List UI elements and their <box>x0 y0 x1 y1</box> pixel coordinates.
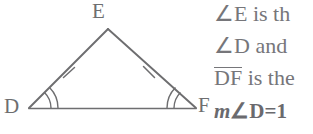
vertex-label-F: F <box>198 95 210 116</box>
side-DE <box>29 29 108 108</box>
problem-text-block: ∠E is th ∠D and DF is the m∠D=1 <box>214 0 313 134</box>
triangle-figure: E D F <box>0 0 210 134</box>
vertex-label-E: E <box>92 1 105 22</box>
angle-arc-F <box>167 88 181 109</box>
geometry-figure-page: E D F ∠E is th ∠D and DF is the m∠D=1 <box>0 0 313 134</box>
text-line-measure-angle-D: m∠D=1 <box>214 100 287 122</box>
side-EF <box>108 29 196 108</box>
vertex-label-D: D <box>4 96 19 117</box>
text-line-segment-DF-rest: is the <box>242 65 295 90</box>
measure-prefix-m: m <box>214 99 230 123</box>
text-line-segment-DF: DF is the <box>214 67 295 89</box>
text-line-angle-D-and: ∠D and <box>214 35 287 57</box>
measure-angle-D-expression: ∠D= <box>230 99 276 123</box>
measure-value-clipped: 1 <box>276 99 287 123</box>
segment-overline-DF: DF <box>214 67 242 88</box>
triangle-diagram <box>0 0 210 134</box>
text-line-angle-E: ∠E is th <box>214 3 290 25</box>
